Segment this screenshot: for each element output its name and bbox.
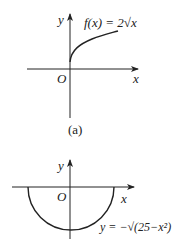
graph-b-function-label: y = −√(25−x²) — [100, 221, 171, 233]
diagram-canvas — [0, 0, 175, 239]
graph-b-x-label: x — [121, 192, 127, 205]
graph-a-sqrt-curve — [70, 31, 118, 62]
graph-a-x-label: x — [133, 72, 139, 85]
graph-b-y-label: y — [58, 159, 64, 172]
graph-a-y-label: y — [58, 13, 64, 26]
graph-a-origin-label: O — [57, 72, 66, 85]
graph-a-function-label: f(x) = 2√x — [84, 16, 137, 29]
graph-a-caption: (a) — [68, 123, 82, 136]
graph-b-origin-label: O — [57, 190, 66, 203]
